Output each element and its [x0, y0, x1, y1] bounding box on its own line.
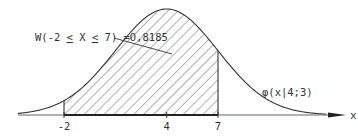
curve-label: φ(x|4;3)	[262, 86, 313, 99]
tick-label: 7	[215, 120, 221, 132]
tick-label: 4	[164, 120, 170, 132]
x-axis-arrow-icon	[328, 113, 346, 118]
tick-label: -2	[58, 120, 71, 132]
x-axis-label: x	[350, 109, 357, 122]
normal-distribution-diagram: x -247 W(-2 < X < 7) =O,8185 φ(x|4;3)	[0, 0, 358, 139]
probability-label: W(-2 < X < 7) =O,8185	[35, 31, 168, 43]
shaded-probability-area	[64, 9, 218, 115]
